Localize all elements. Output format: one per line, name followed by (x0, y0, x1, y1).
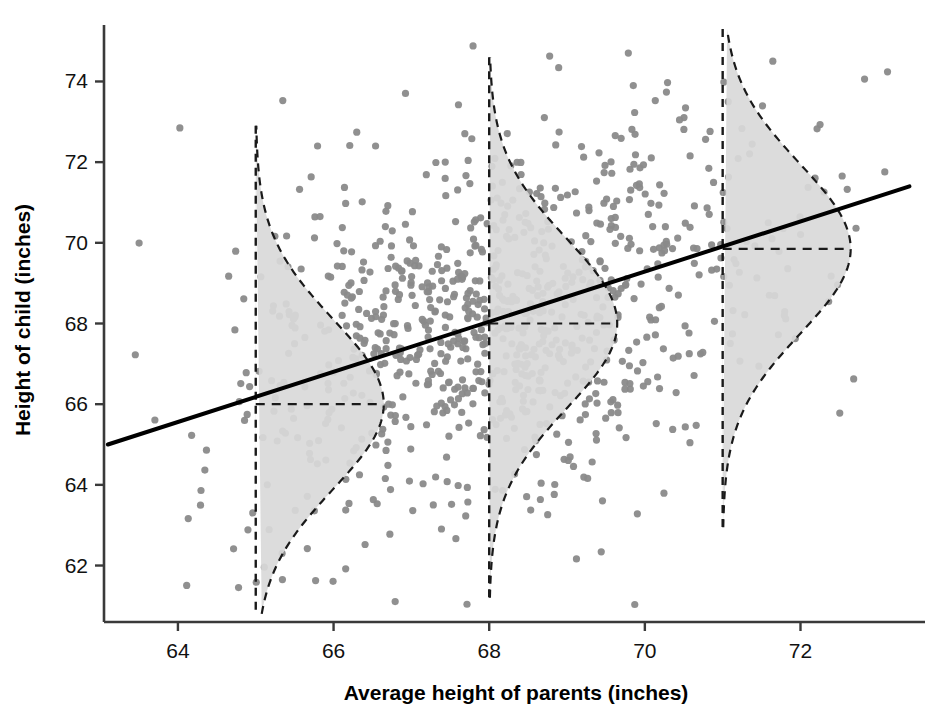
scatter-point (653, 420, 660, 427)
scatter-point (546, 52, 553, 59)
scatter-point (431, 360, 438, 367)
scatter-point (850, 375, 857, 382)
scatter-point (612, 240, 619, 247)
scatter-point (592, 430, 599, 437)
scatter-point (630, 295, 637, 302)
scatter-point (348, 294, 355, 301)
scatter-point (615, 290, 622, 297)
scatter-point (327, 274, 334, 281)
scatter-point (480, 296, 487, 303)
scatter-point (631, 109, 638, 116)
scatter-point (464, 498, 471, 505)
scatter-point (343, 322, 350, 329)
scatter-point (440, 384, 447, 391)
scatter-point (392, 281, 399, 288)
scatter-point (476, 277, 483, 284)
scatter-point (633, 339, 640, 346)
scatter-point (691, 202, 698, 209)
scatter-point (682, 104, 689, 111)
scatter-point (329, 578, 336, 585)
scatter-point (479, 248, 486, 255)
scatter-point (636, 247, 643, 254)
axis-labels: Average height of parents (inches) Heigh… (11, 69, 812, 704)
scatter-point (407, 423, 414, 430)
scatter-point (652, 316, 659, 323)
scatter-point (884, 68, 891, 75)
y-tick-label: 66 (65, 392, 88, 415)
scatter-point (455, 335, 462, 342)
scatter-point (232, 248, 239, 255)
x-axis-title: Average height of parents (inches) (344, 681, 689, 704)
scatter-point (606, 226, 613, 233)
scatter-point (445, 340, 452, 347)
scatter-point (482, 340, 489, 347)
scatter-point (408, 273, 415, 280)
scatter-point (423, 421, 430, 428)
scatter-point (607, 158, 614, 165)
scatter-point (622, 434, 629, 441)
scatter-point (614, 409, 621, 416)
scatter-point (470, 385, 477, 392)
scatter-point (429, 268, 436, 275)
scatter-point (341, 184, 348, 191)
scatter-plot-with-conditional-distributions: Average height of parents (inches) Heigh… (0, 0, 945, 717)
scatter-point (413, 356, 420, 363)
scatter-point (444, 478, 451, 485)
scatter-point (481, 389, 488, 396)
conditional-distribution (723, 29, 851, 527)
scatter-point (660, 190, 667, 197)
scatter-point (630, 161, 637, 168)
scatter-point (552, 185, 559, 192)
scatter-point (544, 511, 551, 518)
scatter-point (438, 267, 445, 274)
scatter-point (188, 432, 195, 439)
scatter-point (382, 223, 389, 230)
scatter-point (398, 267, 405, 274)
scatter-point (625, 49, 632, 56)
scatter-point (442, 159, 449, 166)
scatter-point (693, 245, 700, 252)
scatter-point (374, 500, 381, 507)
scatter-point (881, 168, 888, 175)
scatter-point (430, 501, 437, 508)
scatter-point (312, 577, 319, 584)
scatter-point (469, 400, 476, 407)
scatter-point (279, 97, 286, 104)
scatter-point (442, 311, 449, 318)
scatter-point (442, 285, 449, 292)
scatter-point (136, 240, 143, 247)
y-tick-label: 70 (65, 231, 88, 254)
conditional-distribution (489, 57, 617, 598)
scatter-point (356, 471, 363, 478)
scatter-point (676, 116, 683, 123)
scatter-point (230, 545, 237, 552)
scatter-point (759, 102, 766, 109)
scatter-point (461, 130, 468, 137)
scatter-point (696, 271, 703, 278)
scatter-point (681, 322, 688, 329)
scatter-point (356, 323, 363, 330)
scatter-point (415, 262, 422, 269)
scatter-point (385, 265, 392, 272)
scatter-point (399, 393, 406, 400)
conditional-distribution (256, 126, 384, 614)
scatter-point (372, 142, 379, 149)
scatter-point (582, 400, 589, 407)
scatter-point (656, 181, 663, 188)
scatter-point (626, 196, 633, 203)
scatter-point (839, 172, 846, 179)
scatter-point (597, 221, 604, 228)
scatter-point (432, 473, 439, 480)
scatter-point (602, 415, 609, 422)
scatter-point (450, 293, 457, 300)
scatter-point (432, 159, 439, 166)
scatter-point (132, 351, 139, 358)
scatter-point (468, 135, 475, 142)
y-tick-label: 64 (65, 473, 89, 496)
scatter-point (704, 204, 711, 211)
conditional-distribution-curves (256, 29, 851, 614)
scatter-point (455, 482, 462, 489)
scatter-point (469, 298, 476, 305)
scatter-point (342, 565, 349, 572)
scatter-point (392, 598, 399, 605)
